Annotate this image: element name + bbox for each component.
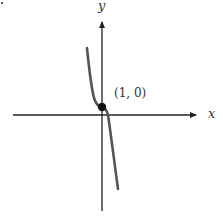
x-axis-label: x [208,106,215,121]
corner-mark [1,2,3,4]
y-axis-label: y [98,0,105,13]
chart-canvas: y x (1, 0) [0,0,223,218]
point-label: (1, 0) [114,86,146,100]
point-marker [98,103,106,111]
chart-svg [0,0,223,218]
